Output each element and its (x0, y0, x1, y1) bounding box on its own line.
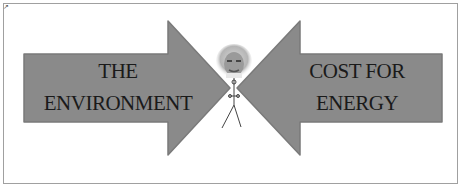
right-arrow-label-line2: ENERGY (284, 91, 430, 115)
right-arrow-label-line1: COST FOR (284, 59, 430, 83)
left-arrow-shape (24, 21, 230, 155)
left-arrow-label-line1: THE (24, 59, 212, 83)
right-arrow-shape (237, 21, 442, 155)
left-arrow-label-line2: ENVIRONMENT (24, 91, 212, 115)
